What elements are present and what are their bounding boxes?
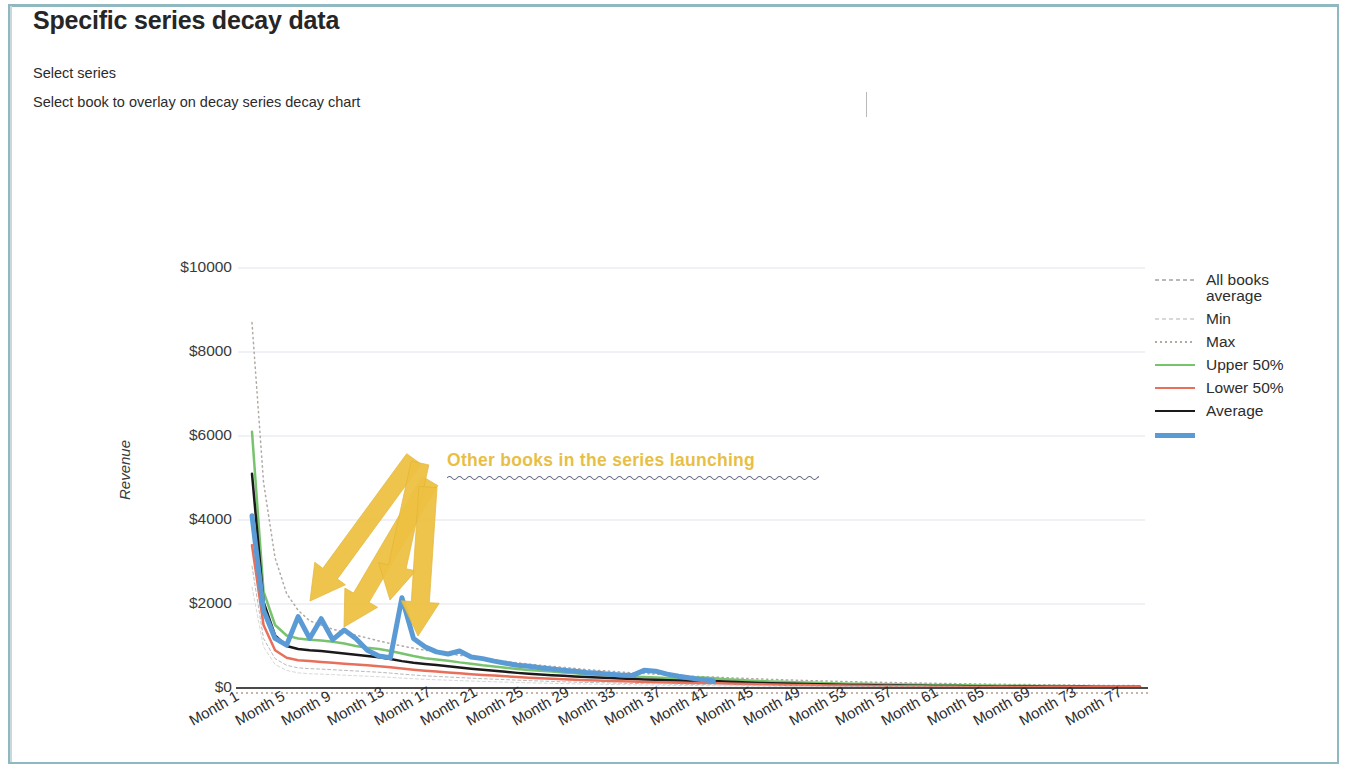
- legend-label: Lower 50%: [1206, 380, 1284, 396]
- y-tick-4000: $4000: [120, 510, 232, 528]
- legend-swatch-icon: [1155, 357, 1195, 373]
- select-book-label: Select book to overlay on decay series d…: [33, 94, 360, 110]
- legend-item-min[interactable]: Min: [1155, 311, 1345, 327]
- legend-swatch-icon: [1155, 334, 1195, 350]
- y-tick-0: $0: [120, 678, 232, 696]
- legend-label: Max: [1206, 334, 1235, 350]
- y-tick-6000: $6000: [120, 426, 232, 444]
- annotation-squiggly-underline: [447, 476, 819, 480]
- screenshot-page: Specific series decay data Select series…: [0, 0, 1351, 772]
- legend-item-max[interactable]: Max: [1155, 334, 1345, 350]
- legend-item-lower-50-[interactable]: Lower 50%: [1155, 380, 1345, 396]
- y-tick-2000: $2000: [120, 594, 232, 612]
- y-tick-10000: $10000: [120, 258, 232, 276]
- legend-swatch-icon: [1155, 311, 1195, 327]
- legend-swatch-icon: [1155, 426, 1195, 442]
- page-border-frame: [8, 4, 1339, 764]
- legend-label: Upper 50%: [1206, 357, 1284, 373]
- y-axis-title: Revenue: [116, 440, 133, 500]
- annotation-text: Other books in the series launching: [447, 450, 755, 471]
- legend-item-selected-book[interactable]: [1155, 426, 1345, 442]
- legend-item-average[interactable]: Average: [1155, 403, 1345, 419]
- legend-swatch-icon: [1155, 272, 1195, 288]
- y-tick-8000: $8000: [120, 342, 232, 360]
- legend-item-all-books-average[interactable]: All books average: [1155, 272, 1345, 304]
- legend-label: All books average: [1206, 272, 1326, 304]
- text-cursor-caret[interactable]: [866, 92, 867, 117]
- legend-item-upper-50-[interactable]: Upper 50%: [1155, 357, 1345, 373]
- chart-legend: All books averageMinMaxUpper 50%Lower 50…: [1155, 272, 1345, 449]
- legend-label: Min: [1206, 311, 1231, 327]
- legend-swatch-icon: [1155, 403, 1195, 419]
- legend-label: Average: [1206, 403, 1263, 419]
- select-series-label: Select series: [33, 65, 116, 81]
- page-title: Specific series decay data: [33, 6, 339, 35]
- legend-swatch-icon: [1155, 380, 1195, 396]
